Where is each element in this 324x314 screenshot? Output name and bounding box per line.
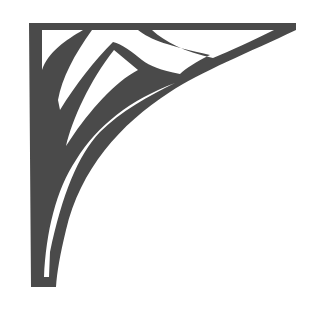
corner-bracket-icon	[0, 0, 324, 314]
ornament-canvas: Decorative corner bracket ornament	[0, 0, 324, 314]
bracket-outline	[29, 23, 296, 287]
bracket-shape	[29, 23, 296, 287]
